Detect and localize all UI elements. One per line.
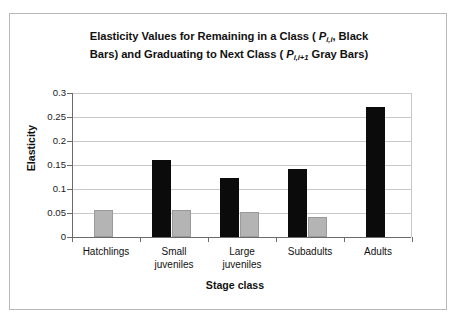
x-axis-category-label-line: Adults <box>333 245 423 258</box>
bar-graduating-large-juveniles <box>240 212 259 237</box>
gridline <box>73 237 411 238</box>
gridline <box>73 141 411 142</box>
gridline <box>73 189 411 190</box>
y-axis-tick-label: 0.05 <box>6 207 66 218</box>
bar-remaining-small-juveniles <box>152 160 171 237</box>
plot-wrapper: Elasticity Stage class 0.30.250.20.150.1… <box>10 14 448 311</box>
y-axis-tick-label: 0 <box>6 231 66 242</box>
x-axis-tick-mark <box>412 237 413 242</box>
bar-graduating-hatchlings <box>94 210 113 237</box>
x-axis-category-label: Adults <box>333 245 423 258</box>
gridline <box>73 117 411 118</box>
gridline <box>73 165 411 166</box>
bar-remaining-large-juveniles <box>220 178 239 237</box>
y-axis-tick-label: 0.25 <box>6 111 66 122</box>
x-axis-title: Stage class <box>70 279 400 291</box>
gridline <box>73 93 411 94</box>
x-axis-category-label-line: juveniles <box>197 258 287 271</box>
bar-graduating-small-juveniles <box>172 210 191 237</box>
bar-remaining-adults <box>366 107 385 237</box>
y-axis-tick-label: 0.15 <box>6 159 66 170</box>
plot-area <box>72 93 412 237</box>
chart-frame: Elasticity Values for Remaining in a Cla… <box>9 13 447 310</box>
y-axis-tick-label: 0.2 <box>6 135 66 146</box>
y-axis-tick-label: 0.1 <box>6 183 66 194</box>
y-axis-tick-label: 0.3 <box>6 87 66 98</box>
bar-remaining-subadults <box>288 169 307 237</box>
bar-graduating-subadults <box>308 217 327 237</box>
